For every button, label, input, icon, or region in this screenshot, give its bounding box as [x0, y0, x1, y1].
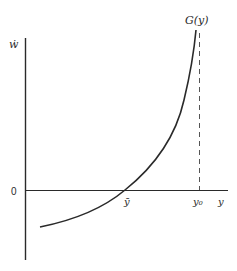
- g-curve: [40, 30, 196, 227]
- phase-diagram: ẇ 0 G(y) ȳ y₀ y: [0, 0, 237, 271]
- y0-label: y₀: [192, 196, 203, 207]
- curve-label: G(y): [185, 14, 209, 27]
- ybar-label: ȳ: [123, 196, 130, 207]
- y-axis-label: ẇ: [9, 38, 19, 51]
- x-axis-label: y: [217, 196, 224, 207]
- origin-label: 0: [11, 186, 17, 197]
